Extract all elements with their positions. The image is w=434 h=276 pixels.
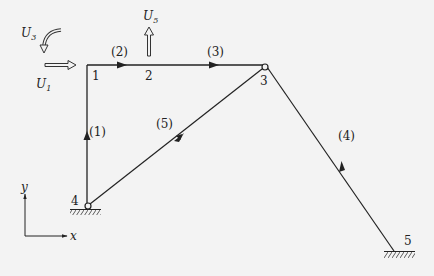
y-axis-label: y (20, 180, 28, 194)
element-label-5: (5) (156, 117, 173, 131)
dof-u5-label: U5 (143, 9, 158, 25)
direction-arrow-icon (117, 62, 127, 69)
element-label-1: (1) (89, 125, 106, 139)
node-label-3: 3 (260, 74, 268, 88)
node-label-2: 2 (145, 69, 153, 83)
node-label-1: 1 (92, 69, 100, 83)
dof-u1-label: U1 (36, 77, 51, 93)
pin-support-node-4-icon (70, 210, 101, 216)
frame-diagram: 1 2 3 4 5 (1) (2) (3) (4) (5) U1 U3 U5 y… (0, 0, 434, 276)
node-label-5: 5 (404, 234, 412, 248)
dof-u3-rotation-arrow-icon (40, 30, 61, 53)
direction-arrow-icon (209, 62, 219, 69)
direction-arrow-icon (339, 161, 345, 172)
element-label-2: (2) (111, 45, 128, 59)
coordinate-axes: y x (20, 180, 77, 243)
element-2 (87, 62, 149, 69)
element-5 (90, 69, 262, 204)
hinge-node-4-icon (85, 203, 91, 209)
dof-u3-label: U3 (21, 26, 36, 42)
element-label-3: (3) (207, 45, 224, 59)
element-3 (149, 62, 263, 69)
element-label-4: (4) (338, 129, 355, 143)
hinge-node-3-icon (262, 64, 268, 70)
dof-u1-arrow-icon (45, 61, 76, 70)
dof-u5-arrow-icon (145, 27, 154, 56)
fixed-support-node-5-icon (384, 252, 415, 259)
x-axis-label: x (70, 229, 77, 243)
node-label-4: 4 (71, 194, 79, 208)
element-4 (267, 67, 394, 251)
